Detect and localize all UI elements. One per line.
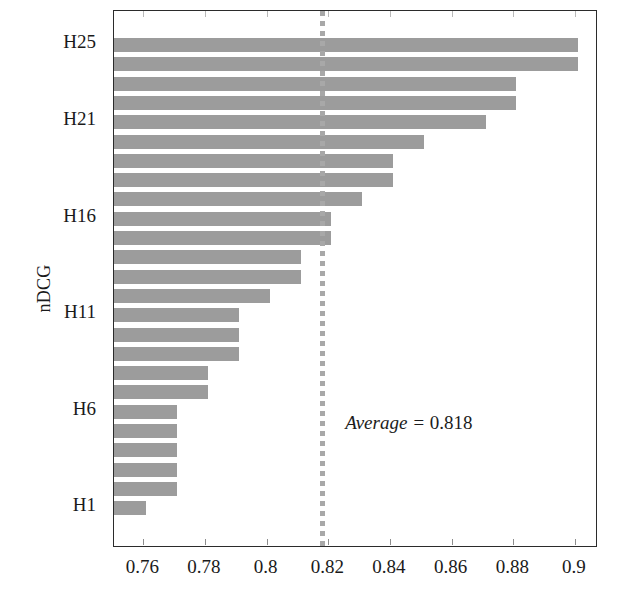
average-annotation-prefix: Average = [345, 412, 430, 433]
y-tick-label-h25: H25 [0, 31, 96, 53]
bar-h24 [114, 57, 578, 71]
ndcg-bar-chart: nDCG H25H21H16H11H6H1 Average = 0.818 0.… [0, 0, 638, 598]
bar-h23 [114, 77, 516, 91]
x-tick-mark-top-5 [452, 11, 453, 17]
x-tick-mark-bottom-6 [513, 539, 514, 545]
x-tick-mark-bottom-5 [452, 539, 453, 545]
x-tick-mark-top-1 [205, 11, 206, 17]
x-tick-mark-bottom-1 [205, 539, 206, 545]
x-tick-mark-bottom-3 [328, 539, 329, 545]
x-tick-mark-top-7 [575, 11, 576, 17]
bar-h8 [114, 366, 208, 380]
bar-h19 [114, 154, 393, 168]
average-line [320, 11, 325, 546]
bar-h10 [114, 328, 239, 342]
bars-layer [114, 11, 596, 546]
bar-h20 [114, 135, 424, 149]
bar-h14 [114, 250, 301, 264]
x-tick-mark-top-2 [267, 11, 268, 17]
x-tick-mark-top-6 [513, 11, 514, 17]
bar-h6 [114, 405, 177, 419]
bar-h22 [114, 96, 516, 110]
bar-h1 [114, 501, 146, 515]
bar-h21 [114, 115, 486, 129]
x-tick-mark-bottom-7 [575, 539, 576, 545]
bar-h2 [114, 482, 177, 496]
y-tick-label-h16: H16 [0, 205, 96, 227]
x-tick-mark-top-3 [328, 11, 329, 17]
y-tick-label-h1: H1 [0, 494, 96, 516]
average-annotation-value: 0.818 [430, 412, 473, 433]
x-tick-mark-bottom-0 [143, 539, 144, 545]
bar-h15 [114, 231, 331, 245]
bar-h5 [114, 424, 177, 438]
x-tick-mark-top-4 [390, 11, 391, 17]
x-tick-mark-top-0 [143, 11, 144, 17]
bar-h18 [114, 173, 393, 187]
bar-h25 [114, 38, 578, 52]
y-axis-title: nDCG [34, 229, 55, 349]
average-annotation: Average = 0.818 [345, 412, 472, 434]
bar-h13 [114, 270, 301, 284]
bar-h7 [114, 385, 208, 399]
y-tick-label-h21: H21 [0, 108, 96, 130]
y-tick-label-h6: H6 [0, 398, 96, 420]
x-tick-mark-bottom-2 [267, 539, 268, 545]
bar-h3 [114, 463, 177, 477]
bar-h16 [114, 212, 331, 226]
bar-h9 [114, 347, 239, 361]
x-tick-label-0-9: 0.9 [534, 556, 614, 578]
bar-h11 [114, 308, 239, 322]
plot-area [113, 10, 597, 547]
x-tick-mark-bottom-4 [390, 539, 391, 545]
bar-h4 [114, 443, 177, 457]
bar-h12 [114, 289, 270, 303]
